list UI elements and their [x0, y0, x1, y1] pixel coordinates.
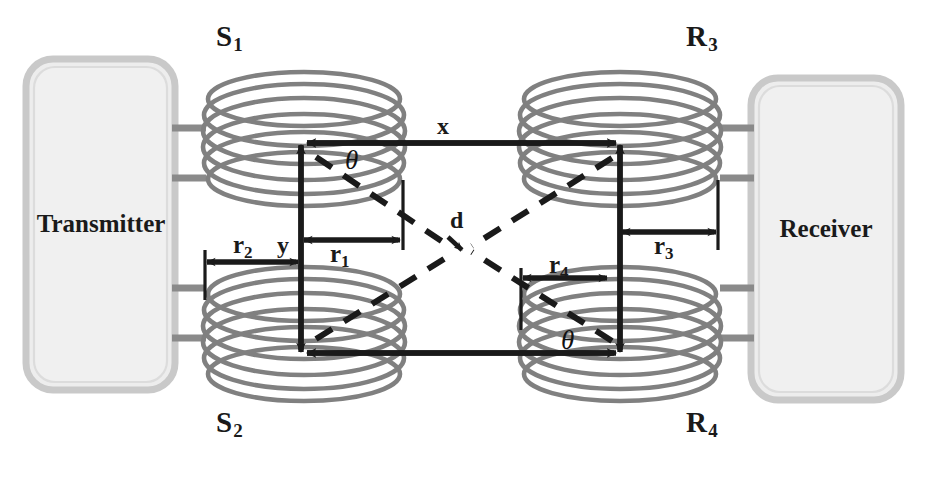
- coil-label-r4: R4: [686, 408, 717, 437]
- diagonal-r3-to-center: [472, 158, 612, 246]
- coil-s2[interactable]: [203, 267, 405, 401]
- dimension-label-r3: r3: [654, 233, 674, 258]
- dimension-label-r1: r1: [330, 241, 350, 266]
- dimension-label-r2: r2: [233, 232, 253, 257]
- diagram-canvas: S1 S2 R3 R4 Transmitter Receiver x y d r…: [0, 0, 927, 486]
- coil-s1[interactable]: [203, 72, 405, 206]
- angle-label-theta-bottom: θ: [561, 327, 574, 354]
- coil-label-s1: S1: [216, 22, 242, 51]
- dimension-label-y: y: [277, 233, 289, 257]
- receiver-label: Receiver: [756, 216, 896, 241]
- d-leader-arrow: [448, 237, 462, 250]
- transmitter-label: Transmitter: [30, 211, 172, 236]
- angle-label-theta-top: θ: [345, 147, 358, 174]
- diagram-svg: [0, 0, 927, 486]
- coil-label-s2: S2: [216, 408, 242, 437]
- dimension-label-x: x: [437, 114, 449, 138]
- coil-label-r3: R3: [686, 22, 717, 51]
- dimension-label-d: d: [450, 208, 463, 232]
- dimension-label-r4: r4: [549, 252, 569, 277]
